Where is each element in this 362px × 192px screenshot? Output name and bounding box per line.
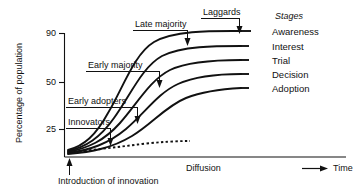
stages-header: Stages <box>275 12 303 21</box>
y-tick-label-25: 25 <box>36 125 56 134</box>
annotation-laggards: Laggards <box>203 8 241 17</box>
y-tick-label-50: 50 <box>36 78 56 87</box>
stage-label-decision: Decision <box>272 70 308 80</box>
annotation-innovators: Innovators <box>68 118 110 127</box>
x-axis-label-time: Time <box>333 164 353 173</box>
y-axis-title: Percentage of population <box>14 43 24 143</box>
curve-decision <box>68 74 241 153</box>
arrowhead-laggards <box>237 26 243 34</box>
annotation-late-majority: Late majority <box>135 20 187 29</box>
time-arrowhead <box>320 166 328 172</box>
arrowhead-introduction <box>67 158 73 166</box>
x-axis-label-diffusion: Diffusion <box>186 164 221 173</box>
stage-label-awareness: Awareness <box>272 27 319 37</box>
y-tick-label-90: 90 <box>36 29 56 38</box>
stage-label-trial: Trial <box>272 56 290 66</box>
stage-label-adoption: Adoption <box>272 84 310 94</box>
stage-label-interest: Interest <box>272 42 304 52</box>
annotation-early-adopters: Early adopters <box>68 97 126 106</box>
annotation-early-majority: Early majority <box>88 61 143 70</box>
annotation-introduction-of-innovation: Introduction of innovation <box>58 177 159 186</box>
arrowhead-early-majority <box>157 80 163 88</box>
arrowhead-late-majority <box>185 38 191 46</box>
diffusion-of-innovation-figure: Percentage of population 90 50 25 Innova… <box>0 0 362 192</box>
curve-trial <box>68 60 241 152</box>
